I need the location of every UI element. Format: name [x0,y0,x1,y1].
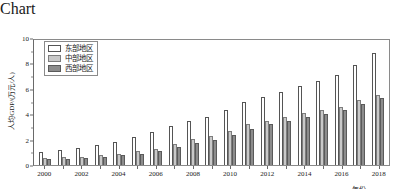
x-tick-mark [63,166,64,169]
bar-west-2000 [47,159,51,165]
bar-west-2005 [140,154,144,165]
x-tick-mark [379,166,380,169]
bar-west-2006 [158,151,162,165]
legend-label: 中部地区 [65,54,93,63]
x-tick-label: 2006 [149,170,163,178]
y-tick-label: 6 [0,86,33,94]
bar-west-2017 [361,104,365,165]
bar-west-2010 [232,135,236,165]
legend-label: 东部地区 [65,44,93,53]
x-tick-label: 2010 [223,170,237,178]
legend-item-east: 东部地区 [48,44,93,53]
grouped-bar-chart: 人均GDP/(万元/人) 年份 东部地区中部地区西部地区 02468102000… [0,18,404,189]
x-tick-mark [119,166,120,169]
bar-west-2009 [213,140,217,165]
bar-west-2013 [287,121,291,165]
bar-west-2014 [306,117,310,165]
x-axis-title: 年份 [352,184,366,189]
bar-west-2011 [250,129,254,165]
x-tick-mark [44,166,45,169]
x-tick-mark [323,166,324,169]
x-tick-mark [193,166,194,169]
y-tick-mark [30,115,33,116]
bar-west-2018 [380,98,384,165]
y-tick-mark [30,64,33,65]
legend-swatch-central [48,55,61,62]
legend-swatch-east [48,45,61,52]
x-tick-label: 2000 [37,170,51,178]
bar-group [332,40,350,165]
legend-swatch-west [48,65,61,72]
bar-group [276,40,294,165]
y-tick-label: 8 [0,60,33,68]
bar-group [128,40,146,165]
x-tick-mark [100,166,101,169]
y-tick-label: 10 [0,35,33,43]
x-tick-mark [286,166,287,169]
x-tick-label: 2002 [74,170,88,178]
y-minor-tick-mark [31,153,33,154]
x-tick-label: 2008 [186,170,200,178]
bar-group [295,40,313,165]
bar-west-2001 [66,159,70,165]
y-minor-tick-mark [31,102,33,103]
x-tick-label: 2014 [297,170,311,178]
x-tick-mark [174,166,175,169]
legend-label: 西部地区 [65,64,93,73]
bar-group [202,40,220,165]
x-tick-mark [81,166,82,169]
x-tick-mark [212,166,213,169]
bar-west-2015 [324,114,328,165]
y-tick-mark [30,140,33,141]
legend-item-west: 西部地区 [48,64,93,73]
bar-group [147,40,165,165]
y-tick-mark [30,166,33,167]
y-tick-label: 4 [0,111,33,119]
bar-group [110,40,128,165]
y-tick-label: 0 [0,162,33,170]
legend-item-central: 中部地区 [48,54,93,63]
bar-west-2016 [343,110,347,165]
bar-west-2003 [103,157,107,165]
x-tick-label: 2018 [372,170,386,178]
y-minor-tick-mark [31,77,33,78]
bar-group [165,40,183,165]
bar-west-2002 [84,158,88,165]
bar-group [368,40,386,165]
y-minor-tick-mark [31,127,33,128]
bar-group [221,40,239,165]
bar-west-2008 [195,143,199,165]
x-tick-mark [230,166,231,169]
bar-group [239,40,257,165]
x-tick-mark [249,166,250,169]
bar-west-2004 [121,155,125,165]
x-tick-mark [304,166,305,169]
y-minor-tick-mark [31,51,33,52]
x-tick-label: 2012 [260,170,274,178]
x-tick-mark [267,166,268,169]
bar-group [258,40,276,165]
x-tick-mark [156,166,157,169]
x-tick-mark [360,166,361,169]
x-tick-mark [137,166,138,169]
y-tick-mark [30,39,33,40]
bar-group [184,40,202,165]
x-tick-label: 2016 [335,170,349,178]
x-tick-mark [342,166,343,169]
x-tick-label: 2004 [112,170,126,178]
legend: 东部地区中部地区西部地区 [44,41,98,76]
y-tick-mark [30,89,33,90]
bar-group [313,40,331,165]
bar-west-2012 [269,124,273,165]
bar-group [350,40,368,165]
y-tick-label: 2 [0,137,33,145]
bar-west-2007 [177,147,181,165]
